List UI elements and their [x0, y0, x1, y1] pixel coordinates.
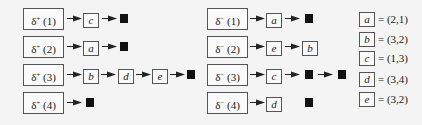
null-terminator-icon — [305, 98, 313, 107]
edge-node-c: c — [266, 69, 282, 84]
edge-label: d — [359, 72, 375, 87]
edge-node-b: b — [302, 41, 318, 56]
in-list-head-2: δ− (2) — [207, 36, 248, 58]
arrow-icon — [285, 42, 300, 51]
arrow-icon — [318, 70, 333, 79]
in-list-head-3: δ− (3) — [207, 64, 248, 86]
null-terminator-icon — [120, 42, 128, 51]
arrow-icon — [136, 70, 151, 79]
arrow-icon — [101, 70, 116, 79]
arrow-icon — [67, 70, 82, 79]
delta-arg: (3) — [227, 71, 240, 83]
legend-item-e: e= (3,2) — [359, 92, 408, 106]
null-terminator-icon — [187, 70, 195, 79]
delta-sup: − — [220, 15, 224, 23]
delta-arg: (4) — [227, 99, 240, 111]
null-terminator-icon — [120, 14, 128, 23]
edge-node-e: e — [152, 69, 168, 84]
delta-sup: + — [36, 99, 40, 107]
edge-label: c — [359, 51, 375, 66]
delta-arg: (1) — [227, 15, 240, 27]
edge-value: = (3,2) — [378, 33, 408, 45]
edge-value: = (3,2) — [378, 93, 408, 105]
delta-sup: + — [36, 43, 40, 51]
edge-label: e — [359, 92, 375, 107]
delta-sup: − — [220, 71, 224, 79]
edge-node-a: a — [83, 41, 99, 56]
arrow-icon — [250, 42, 265, 51]
delta-arg: (3) — [43, 71, 56, 83]
delta-arg: (2) — [227, 43, 240, 55]
arrow-icon — [170, 70, 185, 79]
edge-label: b — [359, 32, 375, 47]
delta-sup: + — [36, 15, 40, 23]
arrow-icon — [67, 42, 82, 51]
in-list-head-4: δ− (4) — [207, 92, 248, 114]
edge-value: = (1,3) — [378, 52, 408, 64]
edge-node-a: a — [266, 13, 282, 28]
edge-label: a — [359, 12, 375, 27]
out-list-head-4: δ+ (4) — [23, 92, 64, 114]
delta-sup: − — [220, 43, 224, 51]
edge-node-c: c — [83, 13, 99, 28]
edge-value: = (3,4) — [378, 73, 408, 85]
delta-arg: (1) — [43, 15, 56, 27]
legend-item-a: a= (2,1) — [359, 12, 408, 26]
null-terminator-icon — [305, 70, 313, 79]
arrow-icon — [102, 14, 117, 23]
out-list-head-1: δ+ (1) — [23, 8, 64, 30]
out-list-head-2: δ+ (2) — [23, 36, 64, 58]
delta-arg: (2) — [43, 43, 56, 55]
in-list-head-1: δ− (1) — [207, 8, 248, 30]
edge-node-b: b — [83, 69, 99, 84]
legend-item-d: d= (3,4) — [359, 72, 408, 86]
out-list-head-3: δ+ (3) — [23, 64, 64, 86]
arrow-icon — [67, 98, 82, 107]
edge-value: = (2,1) — [378, 13, 408, 25]
null-terminator-icon — [305, 14, 313, 23]
delta-arg: (4) — [43, 99, 56, 111]
edge-node-d: d — [266, 97, 282, 112]
arrow-icon — [285, 70, 300, 79]
arrow-icon — [250, 14, 265, 23]
arrow-icon — [102, 42, 117, 51]
null-terminator-icon — [86, 98, 94, 107]
arrow-icon — [285, 14, 300, 23]
legend-item-b: b= (3,2) — [359, 32, 408, 46]
edge-node-e: e — [266, 41, 282, 56]
delta-sup: + — [36, 71, 40, 79]
legend-item-c: c= (1,3) — [359, 51, 408, 65]
delta-sup: − — [220, 99, 224, 107]
arrow-icon — [250, 98, 265, 107]
edge-node-d: d — [118, 69, 134, 84]
null-terminator-icon — [338, 70, 346, 79]
arrow-icon — [250, 70, 265, 79]
arrow-icon — [67, 14, 82, 23]
